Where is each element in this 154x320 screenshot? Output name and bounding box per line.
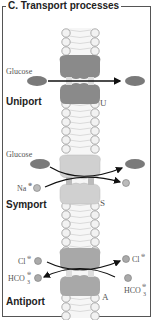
- cl-right: [123, 256, 130, 263]
- hco3-left-label: HCO: [8, 274, 25, 283]
- na-charge: ⊕: [28, 182, 32, 187]
- na-right: [123, 180, 130, 187]
- cl-left-label: Cl: [18, 257, 26, 266]
- antiport-label: Antiport: [6, 296, 46, 307]
- uniport-label: Uniport: [6, 96, 42, 107]
- cl-left: [35, 258, 42, 265]
- glucose-left-uniport: [27, 76, 47, 86]
- na-left: [34, 185, 41, 192]
- glucose-label-symport: Glucose: [6, 150, 33, 159]
- hco3-left-sub: 3: [27, 279, 30, 285]
- glucose-right-uniport: [125, 76, 145, 86]
- cl-right-label: Cl: [132, 255, 140, 264]
- hco3-right-sub: 3: [143, 291, 146, 297]
- transport-diagram: Glucose Uniport U Glucose Na ⊕ Symport S…: [0, 0, 154, 320]
- hco3-left: [35, 275, 42, 282]
- hco3-right-label: HCO: [124, 286, 141, 295]
- hco3-right-charge: ⊖: [142, 283, 146, 288]
- hco3-right: [125, 275, 132, 282]
- cl-right-charge: ⊖: [141, 253, 145, 258]
- glucose-right-symport: [125, 159, 145, 169]
- glucose-left-symport: [30, 159, 50, 169]
- hco3-left-charge: ⊖: [27, 271, 31, 276]
- uniport-letter: U: [100, 98, 107, 108]
- symport-letter: S: [100, 198, 105, 208]
- glucose-label-uniport: Glucose: [6, 67, 33, 76]
- antiport-letter: A: [102, 292, 109, 302]
- symport-label: Symport: [6, 199, 47, 210]
- cl-left-charge: ⊖: [27, 255, 31, 260]
- na-label: Na: [17, 184, 27, 193]
